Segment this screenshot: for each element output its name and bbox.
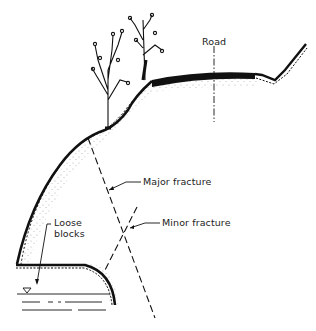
major-fracture-label: Major fracture [143, 177, 211, 187]
major-fracture-leader [109, 182, 141, 190]
water-table-triangle-icon [23, 288, 31, 293]
ledge [16, 265, 115, 305]
minor-fracture-line [104, 207, 137, 272]
road-edge-slope [255, 44, 306, 80]
road-label: Road [202, 37, 226, 47]
minor-fracture-leader [130, 223, 160, 228]
minor-fracture-label: Minor fracture [162, 218, 231, 228]
major-fracture-line [88, 138, 155, 318]
loose-blocks-label-line1: Loose [54, 218, 82, 228]
cross-section-drawing [0, 0, 316, 331]
tree-icon [128, 13, 163, 80]
water-ripples [22, 302, 106, 310]
loose-blocks-label-line2: blocks [54, 229, 85, 239]
